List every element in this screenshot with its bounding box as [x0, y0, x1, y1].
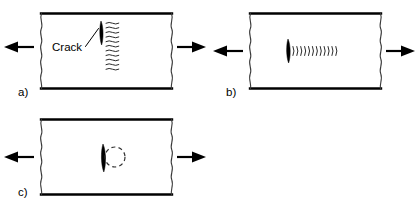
specimen-left-fracture-edge-b — [250, 14, 251, 89]
hatch-arc — [320, 47, 321, 56]
plastic-zone-circle-c — [105, 147, 125, 167]
crack-line-a — [100, 21, 103, 45]
hatch-mark — [106, 36, 119, 38]
hatch-mark — [106, 50, 119, 52]
hatch-mark — [106, 27, 119, 29]
hatch-arc — [336, 47, 337, 56]
crack-b — [287, 39, 291, 63]
hatch-arc — [316, 47, 317, 56]
specimen-body-b — [250, 14, 382, 89]
arrow-head-right-icon — [401, 46, 415, 57]
plastic-zone-hatching-b — [293, 47, 337, 56]
load-arrow-left-c — [4, 152, 34, 163]
hatch-mark — [106, 45, 119, 47]
hatch-mark — [106, 64, 119, 66]
hatch-mark — [106, 68, 119, 70]
hatch-arc — [332, 47, 333, 56]
panel-c: c) — [4, 120, 206, 199]
hatch-arc — [313, 47, 314, 56]
load-arrow-right-c — [177, 152, 206, 163]
crack-line-b — [287, 39, 291, 63]
arrow-head-left-icon — [4, 152, 18, 163]
hatch-mark — [106, 32, 119, 34]
specimen-right-fracture-edge-a — [171, 14, 172, 89]
panel-a: Crack a) — [4, 14, 206, 99]
specimen-left-fracture-edge-c — [41, 120, 42, 195]
panel-label-b: b) — [226, 86, 236, 98]
hatch-arc — [301, 47, 302, 56]
specimen-left-fracture-edge-a — [41, 14, 42, 89]
panel-label-c: c) — [18, 186, 28, 198]
crack-figure: Crack a) — [0, 0, 418, 212]
panel-b: b) — [213, 14, 415, 99]
hatch-mark — [106, 41, 119, 43]
arrow-head-left-icon — [213, 46, 227, 57]
hatch-arc — [293, 47, 294, 56]
crack-a — [100, 21, 103, 45]
figure-canvas: Crack a) — [0, 0, 418, 212]
hatch-arc — [297, 47, 298, 56]
specimen-right-fracture-edge-b — [380, 14, 381, 89]
hatch-arc — [328, 47, 329, 56]
crack-leader-line-a — [86, 29, 99, 47]
arrow-head-left-icon — [4, 42, 18, 53]
hatch-arc — [305, 47, 306, 56]
load-arrow-left-a — [4, 42, 34, 53]
hatch-mark — [106, 55, 119, 57]
specimen-body-c — [41, 120, 173, 195]
hatch-arc — [309, 47, 310, 56]
load-arrow-right-b — [386, 46, 415, 57]
hatch-arc — [324, 47, 325, 56]
panel-label-a: a) — [18, 86, 28, 98]
crack-label-a: Crack — [52, 41, 82, 53]
hatch-mark — [106, 22, 119, 24]
plastic-zone-hatching-a — [106, 22, 119, 70]
arrow-head-right-icon — [192, 152, 206, 163]
hatch-mark — [106, 59, 119, 61]
load-arrow-left-b — [213, 46, 243, 57]
specimen-right-fracture-edge-c — [171, 120, 172, 195]
load-arrow-right-a — [177, 42, 206, 53]
arrow-head-right-icon — [192, 42, 206, 53]
